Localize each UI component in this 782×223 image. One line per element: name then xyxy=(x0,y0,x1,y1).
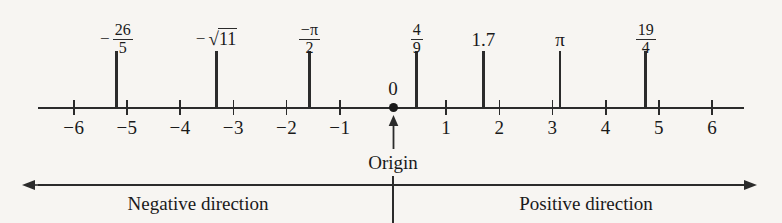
origin-dot xyxy=(389,103,398,112)
value-label: 194 xyxy=(606,22,686,57)
fraction-numerator: 19 xyxy=(636,22,656,39)
fraction: 194 xyxy=(636,22,656,57)
number-line-figure: −6−5−4−3−2−1123456 −265−√11−π2491.7π194 … xyxy=(0,0,782,223)
axis-tick xyxy=(179,100,181,115)
left-arrow-icon xyxy=(22,177,44,197)
value-stem xyxy=(115,51,118,108)
axis-tick-label: 3 xyxy=(530,118,576,137)
fraction: −π2 xyxy=(299,22,320,57)
negative-direction-label: Negative direction xyxy=(48,193,348,215)
axis-tick-label: −4 xyxy=(157,118,203,137)
axis-tick-label: −2 xyxy=(264,118,310,137)
value-label: −265 xyxy=(76,22,156,57)
direction-axis xyxy=(38,184,744,186)
square-root: √11 xyxy=(208,29,237,49)
fraction-denominator: 9 xyxy=(411,39,423,57)
axis-tick xyxy=(658,100,660,115)
axis-tick-label: 4 xyxy=(583,118,629,137)
positive-direction-label: Positive direction xyxy=(436,193,736,215)
value-stem xyxy=(308,51,311,108)
axis-tick xyxy=(711,100,713,115)
value-label: π xyxy=(520,30,600,50)
axis-tick-label: −1 xyxy=(317,118,363,137)
value-stem xyxy=(644,51,647,108)
axis-tick-label: −3 xyxy=(210,118,256,137)
axis-tick-label: 6 xyxy=(689,118,735,137)
value-label: −π2 xyxy=(269,22,349,57)
origin-arrow-icon xyxy=(388,115,399,153)
fraction: 49 xyxy=(411,22,423,57)
fraction: 265 xyxy=(113,22,133,57)
axis-tick xyxy=(73,100,75,115)
axis-tick-label: 1 xyxy=(423,118,469,137)
minus-sign: − xyxy=(100,30,113,48)
value-label: 1.7 xyxy=(443,30,523,50)
minus-sign: − xyxy=(196,30,209,48)
axis-tick-label: −6 xyxy=(51,118,97,137)
origin-label: Origin xyxy=(333,152,453,174)
axis-tick xyxy=(286,100,288,115)
fraction-numerator: 4 xyxy=(411,22,423,39)
fraction-numerator: −π xyxy=(299,22,320,39)
zero-label: 0 xyxy=(373,78,413,100)
right-arrow-icon xyxy=(735,177,757,197)
axis-tick xyxy=(233,100,235,115)
axis-tick xyxy=(126,100,128,115)
axis-tick xyxy=(605,100,607,115)
value-stem xyxy=(415,51,418,108)
value-stem xyxy=(482,51,485,108)
axis-tick-label: −5 xyxy=(104,118,150,137)
axis-tick xyxy=(499,100,501,115)
fraction-denominator: 5 xyxy=(113,39,133,57)
fraction-denominator: 4 xyxy=(636,39,656,57)
radicand: 11 xyxy=(218,28,237,49)
value-stem xyxy=(215,51,218,108)
axis-tick xyxy=(445,100,447,115)
value-stem xyxy=(559,51,562,108)
axis-tick-label: 2 xyxy=(476,118,522,137)
fraction-denominator: 2 xyxy=(299,39,320,57)
axis-tick xyxy=(339,100,341,115)
fraction-numerator: 26 xyxy=(113,22,133,39)
axis-tick-label: 5 xyxy=(636,118,682,137)
value-label: −√11 xyxy=(177,29,257,49)
axis-tick xyxy=(552,100,554,115)
